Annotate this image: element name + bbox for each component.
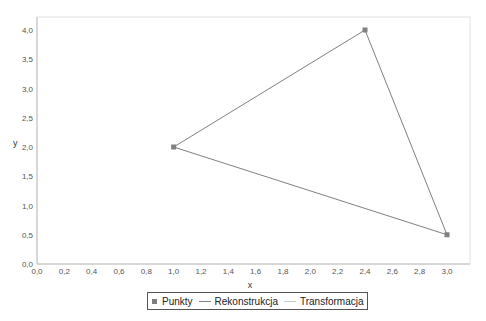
y-tick-label: 2,0 <box>22 143 34 152</box>
x-tick-label: 0,8 <box>141 267 153 276</box>
y-tick-label: 4,0 <box>22 26 34 35</box>
chart-legend: Punkty Rekonstrukcja Transformacja <box>147 292 368 310</box>
x-tick-label: 1,6 <box>250 267 262 276</box>
y-axis-label: y <box>13 138 18 148</box>
x-tick-label: 1,4 <box>223 267 235 276</box>
y-axis-ticks: 0,00,51,01,52,02,53,03,54,0 <box>22 26 34 269</box>
x-tick-label: 0,0 <box>31 267 43 276</box>
legend-label: Transformacja <box>300 296 364 307</box>
square-marker-icon <box>152 299 157 304</box>
x-axis-ticks: 0,00,20,40,60,81,01,21,41,61,82,02,22,42… <box>31 267 453 276</box>
y-tick-label: 3,0 <box>22 85 34 94</box>
x-tick-label: 3,0 <box>441 267 453 276</box>
x-tick-label: 0,6 <box>113 267 125 276</box>
x-axis-label: x <box>248 280 253 290</box>
legend-label: Punkty <box>162 296 193 307</box>
x-tick-label: 1,8 <box>277 267 289 276</box>
y-tick-label: 1,0 <box>22 202 34 211</box>
y-tick-label: 2,5 <box>22 114 34 123</box>
scatter-chart: 0,00,51,01,52,02,53,03,54,0 0,00,20,40,6… <box>0 0 486 321</box>
x-tick-label: 2,8 <box>414 267 426 276</box>
legend-item-transformacja: Transformacja <box>284 296 364 307</box>
data-point-marker <box>171 145 176 150</box>
line-marker-icon <box>199 301 211 302</box>
x-tick-label: 2,2 <box>332 267 344 276</box>
legend-item-rekonstrukcja: Rekonstrukcja <box>199 296 278 307</box>
x-tick-label: 0,4 <box>86 267 98 276</box>
x-tick-label: 1,2 <box>195 267 207 276</box>
x-tick-label: 1,0 <box>168 267 180 276</box>
y-tick-label: 1,5 <box>22 172 34 181</box>
data-point-marker <box>445 232 450 237</box>
x-tick-label: 2,6 <box>387 267 399 276</box>
plot-area <box>37 17 470 264</box>
x-tick-label: 2,0 <box>305 267 317 276</box>
legend-item-punkty: Punkty <box>152 296 193 307</box>
x-tick-label: 2,4 <box>359 267 371 276</box>
line-marker-icon <box>284 301 296 302</box>
y-tick-label: 3,5 <box>22 55 34 64</box>
data-point-marker <box>363 28 368 33</box>
y-tick-label: 0,5 <box>22 231 34 240</box>
legend-label: Rekonstrukcja <box>215 296 278 307</box>
x-tick-label: 0,2 <box>59 267 71 276</box>
